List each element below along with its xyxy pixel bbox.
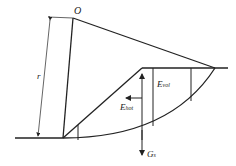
g-sub: s (154, 152, 156, 158)
radius-line-crest (73, 18, 215, 68)
radius-line-toe (63, 18, 73, 138)
radius-label: r (37, 72, 41, 81)
slip-arc (63, 68, 215, 138)
center-label: O (74, 6, 81, 16)
diagram-lines (0, 0, 236, 166)
e-hot-label: Ehot (120, 103, 133, 112)
e-hot-sub: hot (126, 105, 134, 111)
e-vol-sub: vol (163, 82, 170, 88)
gravity-label: Gs (147, 150, 156, 159)
e-vol-label: Evol (157, 80, 170, 89)
radius-dim-top (48, 17, 73, 18)
slope-diagram: O r Evol Ehot Gs (0, 0, 236, 166)
